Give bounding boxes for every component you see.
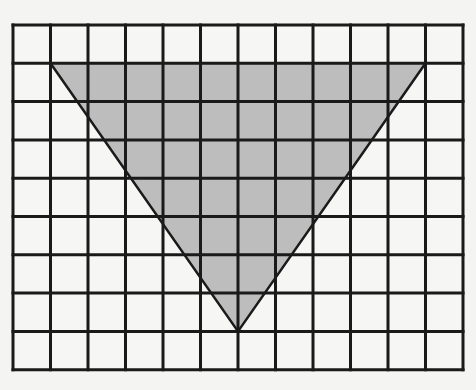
- grid-triangle-diagram: [0, 0, 476, 390]
